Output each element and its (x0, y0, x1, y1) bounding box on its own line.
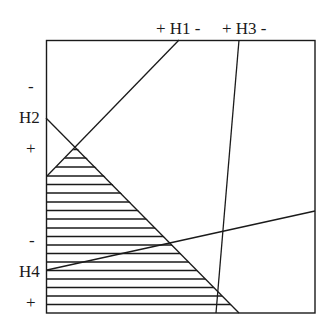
label-h2-minus: - (28, 77, 34, 96)
label-h1: + H1 - (156, 19, 201, 38)
label-h4-plus: + (26, 293, 36, 312)
line-h1 (47, 40, 179, 176)
label-h3: + H3 - (222, 19, 267, 38)
label-h2-plus: + (26, 139, 36, 158)
hyperplane-diagram: + H1 - + H3 - - H2 + - H4 + (0, 0, 332, 329)
label-h4: H4 (19, 262, 40, 281)
line-h4 (47, 211, 315, 270)
bounding-box (47, 41, 316, 314)
label-h4-minus: - (29, 231, 35, 250)
shaded-region-hatching (40, 150, 320, 305)
line-h3 (216, 40, 239, 313)
line-h2 (46, 118, 239, 313)
label-h2: H2 (19, 108, 40, 127)
